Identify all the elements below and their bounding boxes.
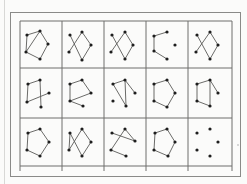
graph-edge (82, 129, 91, 142)
graph-vertex (89, 43, 92, 46)
graph-vertex (26, 131, 29, 134)
graph-edge (26, 35, 27, 52)
graph-edge (210, 32, 218, 45)
graph-vertex (80, 78, 83, 81)
graph-vertex (216, 91, 219, 94)
graph-edge (70, 93, 91, 101)
graph-vertex (25, 33, 28, 36)
graph-vertex (80, 154, 83, 157)
graph-vertex (67, 148, 70, 151)
graph-vertex (208, 104, 211, 107)
graph-edge (82, 32, 91, 45)
graph-vertex (195, 82, 198, 85)
graph-vertex (216, 140, 219, 143)
graph-vertex (47, 91, 50, 94)
graph-edge (26, 52, 40, 59)
graph-edge (154, 80, 167, 84)
graph-vertex (109, 50, 112, 53)
graph-edge (40, 129, 49, 142)
graph-vertex (80, 30, 83, 33)
graph-edge (210, 45, 218, 59)
graph-vertex (165, 57, 168, 60)
graph-edge (82, 45, 91, 60)
graph-edge (113, 84, 126, 106)
graph-edge (167, 80, 175, 93)
graph-vertex (152, 49, 155, 52)
graph-vertex (38, 127, 41, 130)
graph-vertex (194, 50, 197, 53)
graph-vertex (81, 104, 84, 107)
graph-edge (27, 93, 49, 102)
graph-cell-r0c1 (67, 30, 92, 61)
graph-cell-r1c2 (111, 78, 136, 107)
graph-vertex (68, 99, 71, 102)
graph-edge (70, 101, 83, 106)
graph-edge (125, 80, 135, 93)
graph-vertex (208, 154, 211, 157)
graph-edge (125, 32, 133, 45)
graph-edge (82, 142, 91, 156)
graph-vertex (124, 104, 127, 107)
graph-vertex (195, 33, 198, 36)
graph-vertex (195, 99, 198, 102)
graph-vertex (195, 148, 198, 151)
graph-edge (40, 142, 49, 156)
graph-edge (154, 101, 167, 107)
graph-vertex (47, 140, 50, 143)
graph-vertex (124, 154, 127, 157)
graph-cell-r1c0 (25, 78, 50, 108)
graph-vertex (195, 131, 198, 134)
graph-edge (167, 129, 175, 142)
graph-edge (154, 133, 155, 150)
graph-edge (154, 51, 167, 59)
graph-cell-r1c3 (152, 78, 176, 108)
graph-vertex (89, 140, 92, 143)
graph-vertex (89, 91, 92, 94)
graph-vertex (123, 57, 126, 60)
graph-vertex (152, 99, 155, 102)
graph-vertex (111, 99, 114, 102)
graph-edge (69, 133, 70, 150)
graph-cell-r1c4 (195, 78, 219, 107)
graph-edge (111, 150, 126, 156)
graph-vertex (152, 34, 155, 37)
graph-vertex (24, 50, 27, 53)
graph-edge (82, 80, 91, 93)
graph-cell-r2c1 (67, 127, 92, 157)
graph-vertex (26, 82, 29, 85)
graph-edge (197, 101, 210, 106)
graph-edge (197, 35, 210, 59)
graph-grid-diagram (0, 0, 247, 184)
graph-vertex (38, 154, 41, 157)
graph-edge (197, 80, 210, 84)
graph-cell-r0c3 (152, 30, 176, 60)
graph-vertex (123, 30, 126, 33)
graph-cell-r0c0 (24, 29, 49, 60)
graph-vertex (133, 91, 136, 94)
graph-vertex (25, 148, 28, 151)
graph-vertex (123, 78, 126, 81)
stray-dot (237, 144, 238, 145)
graph-vertex (165, 127, 168, 130)
graph-vertex (165, 30, 168, 33)
graph-vertex (173, 91, 176, 94)
graph-vertex (80, 127, 83, 130)
graph-edge (154, 32, 167, 36)
graph-vertex (67, 50, 70, 53)
graph-edge (27, 84, 28, 102)
graph-edge (125, 45, 133, 59)
graph-edge (40, 80, 41, 107)
graph-vertex (173, 43, 176, 46)
graph-vertex (38, 29, 41, 32)
graph-cell-r0c4 (194, 30, 219, 60)
graph-edge (112, 35, 125, 59)
graph-vertex (131, 43, 134, 46)
graph-vertex (216, 43, 219, 46)
graph-edge (125, 80, 126, 106)
graph-vertex (208, 78, 211, 81)
graph-edge (27, 150, 40, 156)
graph-edge (27, 133, 28, 150)
graph-vertex (165, 105, 168, 108)
graph-edge (40, 44, 48, 59)
graph-vertex (208, 57, 211, 60)
